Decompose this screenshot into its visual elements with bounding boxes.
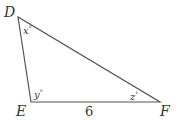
- vertex-label-d: D: [3, 4, 15, 20]
- angle-label-z: z°: [129, 90, 138, 102]
- side-label-ef: 6: [85, 104, 93, 119]
- angle-label-x: x°: [23, 24, 32, 36]
- vertex-label-f: F: [159, 103, 171, 119]
- vertex-label-e: E: [15, 103, 26, 119]
- triangle-diagram: D E F x° y° z° 6: [0, 0, 177, 120]
- angle-label-y: y°: [33, 88, 43, 100]
